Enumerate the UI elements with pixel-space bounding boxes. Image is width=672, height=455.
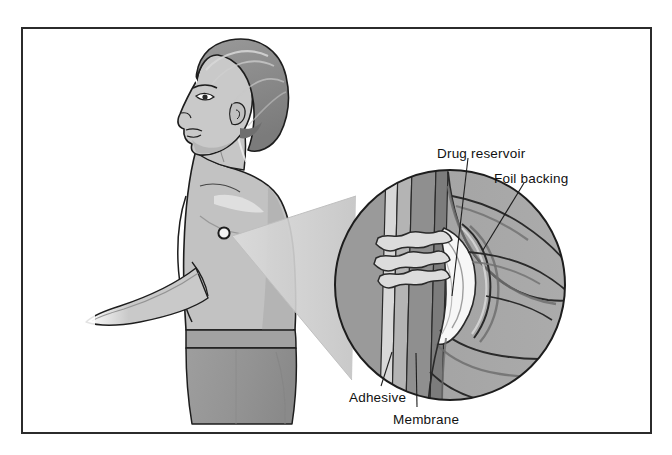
callout-label-adhesive: Adhesive bbox=[349, 390, 406, 405]
illustration-canvas: Drug reservoir Foil backing Adhesive Mem… bbox=[0, 0, 672, 455]
illustration-artwork bbox=[0, 0, 672, 455]
magnifier-lens bbox=[330, 165, 592, 410]
patient-head bbox=[178, 39, 289, 170]
patient-body bbox=[23, 150, 296, 424]
callout-label-foil-backing: Foil backing bbox=[494, 171, 568, 186]
callout-label-drug-reservoir: Drug reservoir bbox=[437, 146, 525, 161]
transdermal-patch-marker bbox=[218, 227, 229, 238]
callout-label-membrane: Membrane bbox=[393, 412, 459, 427]
